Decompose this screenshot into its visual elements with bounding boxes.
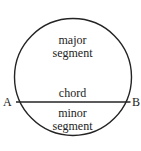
chord-label: chord — [0, 87, 141, 99]
minor-segment-label-line1: minor — [0, 107, 141, 119]
minor-segment-label-line2: segment — [0, 120, 141, 132]
point-b-label: B — [132, 96, 140, 108]
major-segment-label-line2: segment — [0, 47, 141, 59]
point-a-label: A — [3, 96, 12, 108]
major-segment-label-line1: major — [0, 34, 141, 46]
circle-segment-diagram: major segment chord minor segment A B — [0, 0, 141, 151]
